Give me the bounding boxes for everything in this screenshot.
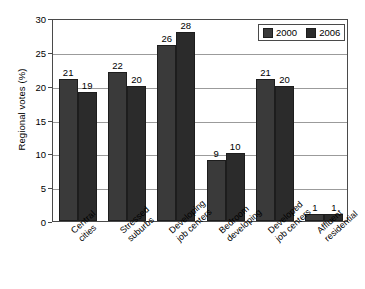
y-tick-label: 20 <box>16 81 46 92</box>
bar-column: 20 <box>127 20 146 221</box>
bar-value-label: 20 <box>131 74 142 85</box>
bar-value-label: 19 <box>82 80 93 91</box>
gridline <box>53 155 347 156</box>
y-tick-label: 30 <box>16 14 46 25</box>
bar-value-label: 26 <box>162 33 173 44</box>
bar-group: 2220 <box>108 20 146 221</box>
bar <box>176 32 195 221</box>
legend-item: 2000 <box>263 27 297 38</box>
legend-item: 2006 <box>306 27 340 38</box>
bar-column: 21 <box>59 20 78 221</box>
y-tick-label: 5 <box>16 183 46 194</box>
gridline <box>53 189 347 190</box>
y-tick-label: 10 <box>16 149 46 160</box>
bar-value-label: 10 <box>230 141 241 152</box>
bar-group: 910 <box>207 20 245 221</box>
bar-column: 28 <box>176 20 195 221</box>
bar-value-label: 9 <box>214 148 219 159</box>
bar-value-label: 20 <box>279 74 290 85</box>
gridline <box>53 122 347 123</box>
bar-column: 21 <box>256 20 275 221</box>
bar <box>256 79 275 221</box>
bar-column: 9 <box>207 20 226 221</box>
bar-value-label: 28 <box>181 20 192 31</box>
bar-column: 1 <box>305 20 324 221</box>
bar-column: 1 <box>324 20 343 221</box>
bar-column: 10 <box>226 20 245 221</box>
bar-column: 22 <box>108 20 127 221</box>
bar-group: 2119 <box>59 20 97 221</box>
bar-column: 26 <box>157 20 176 221</box>
legend-label: 2000 <box>276 27 297 38</box>
legend-swatch-icon <box>306 28 316 38</box>
legend: 20002006 <box>258 24 345 41</box>
bar-value-label: 21 <box>260 67 271 78</box>
bar <box>127 86 146 221</box>
bar <box>108 72 127 221</box>
legend-label: 2006 <box>319 27 340 38</box>
bar-chart: Regional votes (%) 051015202530 21192220… <box>0 0 365 289</box>
bar-group: 2628 <box>157 20 195 221</box>
bar <box>59 79 78 221</box>
bar-column: 19 <box>78 20 97 221</box>
plot-area: 211922202628910212011 <box>52 19 348 222</box>
y-tick-label: 15 <box>16 115 46 126</box>
bar <box>78 92 97 221</box>
y-tick-label: 0 <box>16 217 46 228</box>
bar <box>275 86 294 221</box>
bar-group: 11 <box>305 20 343 221</box>
y-tick-label: 25 <box>16 47 46 58</box>
bar-value-label: 21 <box>63 67 74 78</box>
bar-value-label: 22 <box>112 60 123 71</box>
legend-swatch-icon <box>263 28 273 38</box>
gridline <box>53 54 347 55</box>
gridline <box>53 88 347 89</box>
bar <box>157 45 176 221</box>
bar-column: 20 <box>275 20 294 221</box>
bar-group: 2120 <box>256 20 294 221</box>
y-tick-mark <box>48 222 52 223</box>
bar-value-label: 1 <box>312 202 317 213</box>
